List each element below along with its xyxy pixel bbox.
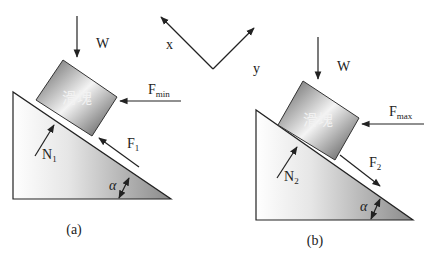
- friction-force-label-a: F1: [127, 136, 139, 153]
- x-axis-label: x: [166, 37, 173, 52]
- inclined-plane-diagram: x y 滑塊 W Fmin F1 N1 α (a) 滑塊 W: [0, 0, 432, 255]
- angle-label-a: α: [109, 178, 117, 193]
- push-force-label-b: Fmax: [389, 104, 413, 121]
- coordinate-axes: x y: [161, 17, 260, 76]
- push-force-label-a: Fmin: [148, 82, 170, 99]
- weight-label-a: W: [96, 36, 110, 51]
- block-a-label: 滑塊: [62, 89, 92, 107]
- friction-force-label-b: F2: [369, 155, 381, 172]
- block-b-label: 滑塊: [303, 111, 333, 129]
- caption-b: (b): [307, 233, 324, 249]
- weight-label-b: W: [337, 59, 351, 74]
- panel-a: 滑塊 W Fmin F1 N1 α (a): [13, 16, 181, 238]
- y-axis-label: y: [253, 61, 260, 76]
- caption-a: (a): [66, 222, 82, 238]
- angle-label-b: α: [360, 199, 368, 214]
- panel-b: 滑塊 W Fmax F2 N2 α (b): [256, 37, 424, 249]
- y-axis-arrow: [213, 28, 254, 69]
